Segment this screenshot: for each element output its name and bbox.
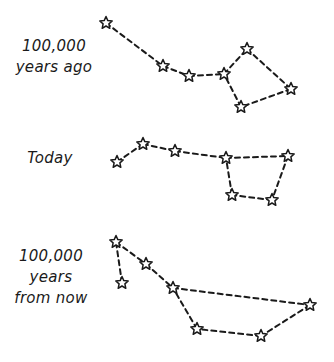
dashed-link bbox=[272, 156, 288, 200]
dashed-link bbox=[247, 49, 291, 89]
star-icon bbox=[137, 138, 149, 150]
dashed-link bbox=[261, 305, 310, 336]
star-icon bbox=[191, 323, 203, 335]
dashed-link bbox=[116, 242, 146, 264]
star-icon bbox=[157, 60, 169, 72]
star-icon bbox=[183, 70, 195, 82]
star-icon bbox=[111, 156, 123, 168]
star-icon bbox=[255, 330, 267, 342]
dashed-link bbox=[175, 151, 226, 158]
star-icon bbox=[116, 277, 128, 289]
star-icon bbox=[218, 68, 230, 80]
constellation-today bbox=[111, 138, 294, 206]
star-icon bbox=[169, 145, 181, 157]
dashed-link bbox=[226, 156, 288, 158]
star-icon bbox=[266, 194, 278, 206]
dashed-link bbox=[106, 23, 163, 66]
constellation-diagram bbox=[0, 0, 334, 362]
star-icon bbox=[226, 189, 238, 201]
star-icon bbox=[282, 150, 294, 162]
constellation-past bbox=[100, 17, 297, 113]
star-icon bbox=[235, 101, 247, 113]
dashed-link bbox=[173, 288, 197, 329]
dashed-link bbox=[241, 89, 291, 107]
dashed-link bbox=[173, 288, 310, 305]
constellation-future bbox=[110, 236, 316, 342]
star-icon bbox=[285, 83, 297, 95]
dashed-link bbox=[197, 329, 261, 336]
star-icon bbox=[220, 152, 232, 164]
